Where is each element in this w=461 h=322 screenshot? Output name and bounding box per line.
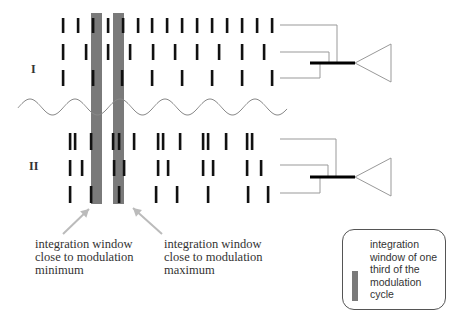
caption-window-minimum: integration window close to modulation m…	[35, 238, 134, 277]
spike	[179, 133, 182, 150]
spike	[151, 70, 154, 86]
spike	[246, 133, 249, 150]
spike	[181, 70, 184, 86]
neuron-triangle-I	[355, 44, 391, 82]
spike	[90, 133, 93, 150]
spike	[123, 160, 126, 176]
spike	[260, 160, 263, 176]
spike	[271, 18, 274, 33]
spike	[241, 44, 244, 60]
spike	[212, 160, 215, 176]
spike	[241, 70, 244, 86]
integration-window-minimum	[91, 13, 102, 204]
connector-line	[280, 165, 328, 177]
spike	[90, 186, 93, 203]
spike	[85, 44, 88, 60]
spike	[263, 44, 266, 60]
legend-window-swatch	[352, 271, 358, 301]
spike	[196, 44, 199, 60]
spike	[251, 133, 254, 150]
spike	[133, 133, 136, 150]
legend-text: integration window of one third of the m…	[370, 238, 437, 301]
spike	[92, 70, 95, 86]
connector-line	[280, 177, 320, 193]
spike	[69, 160, 72, 176]
spike	[202, 133, 205, 150]
spike	[62, 70, 65, 86]
spike	[74, 133, 77, 150]
spike	[107, 44, 110, 60]
spike	[121, 70, 124, 86]
spike	[92, 18, 95, 33]
spike	[112, 133, 115, 150]
spike	[218, 44, 221, 60]
spike	[62, 44, 65, 60]
spike	[211, 18, 214, 33]
spike	[226, 18, 229, 33]
spike	[122, 18, 125, 33]
spike	[211, 70, 214, 86]
spike	[107, 18, 110, 33]
spike	[62, 18, 65, 33]
group-I-label: I	[31, 62, 36, 77]
spike	[113, 160, 116, 176]
spike	[69, 186, 72, 203]
spike	[271, 70, 274, 86]
spike	[118, 133, 121, 150]
neuron-triangle-II	[355, 158, 391, 196]
spike	[151, 18, 154, 33]
group-II-label: II	[29, 159, 38, 174]
spike	[247, 186, 250, 203]
spike	[267, 186, 270, 203]
spike	[157, 160, 160, 176]
modulation-sine-wave	[18, 99, 287, 115]
spike	[167, 160, 170, 176]
spike	[181, 18, 184, 33]
legend-box: integration window of one third of the m…	[342, 229, 446, 310]
spike	[207, 133, 210, 150]
spike	[69, 133, 72, 150]
spike	[137, 18, 140, 33]
convergence-wiring-group-I	[280, 25, 391, 82]
spike	[157, 133, 160, 150]
spike	[246, 160, 249, 176]
connector-line	[280, 63, 320, 78]
spike	[118, 186, 121, 203]
spike	[202, 160, 205, 176]
spike	[162, 133, 165, 150]
spike	[152, 44, 155, 60]
spike	[256, 18, 259, 33]
convergence-wiring-group-II	[280, 139, 391, 196]
caption-window-maximum: integration window close to modulation m…	[164, 238, 263, 277]
spike	[81, 160, 84, 176]
spike	[176, 186, 179, 203]
spike	[77, 18, 80, 33]
connector-line	[280, 25, 337, 63]
spike	[129, 44, 132, 60]
spike	[225, 133, 228, 150]
spike	[174, 44, 177, 60]
pointer-arrows	[63, 208, 162, 234]
connector-line	[280, 52, 329, 63]
spike	[196, 18, 199, 33]
spike	[155, 186, 158, 203]
spike	[207, 186, 210, 203]
spike	[241, 18, 244, 33]
spike	[166, 18, 169, 33]
